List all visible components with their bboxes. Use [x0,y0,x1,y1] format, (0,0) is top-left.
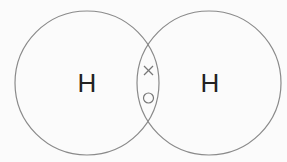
left-atom-label: H [78,68,97,98]
hydrogen-molecule-diagram: H H [0,0,287,162]
circle-electron-icon [144,93,154,103]
cross-electron-icon [144,66,153,75]
right-atom-label: H [201,68,220,98]
diagram-svg: H H [0,0,287,162]
